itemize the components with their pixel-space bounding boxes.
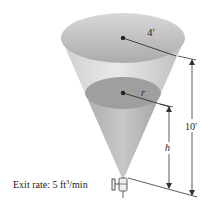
top-extension-line xyxy=(178,56,196,60)
cone-tank-diagram: 4′ r 10′ h Exit rate: 5 ft3/min xyxy=(0,0,207,211)
exit-rate-label: Exit rate: 5 ft3/min xyxy=(13,178,88,190)
total-height-label: 10′ xyxy=(185,121,197,132)
water-center-dot xyxy=(121,91,125,95)
base-extension-line xyxy=(128,178,197,197)
water-extension-line xyxy=(160,104,173,107)
valve-icon xyxy=(112,178,127,198)
water-height-label: h xyxy=(165,142,170,153)
top-center-dot xyxy=(121,36,125,40)
water-radius-label: r xyxy=(141,87,145,98)
top-radius-label: 4′ xyxy=(147,26,155,38)
water-height-arrow-bottom xyxy=(166,183,172,189)
